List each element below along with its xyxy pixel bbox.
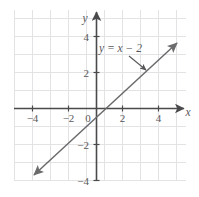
equation-label: y = x − 2 — [98, 42, 142, 55]
y-axis-label: y — [81, 12, 88, 25]
x-tick-label: −2 — [63, 112, 75, 124]
y-tick-label: 4 — [84, 31, 90, 43]
x-tick-label: 4 — [156, 112, 162, 124]
y-tick-label: 2 — [84, 67, 90, 79]
figure-background — [0, 0, 199, 197]
x-tick-label: −4 — [27, 112, 39, 124]
x-axis-label: x — [184, 106, 191, 118]
x-tick-label: 2 — [120, 112, 126, 124]
y-tick-label: −4 — [77, 175, 89, 187]
graph-figure: −4 −2 0 2 4 4 2 −2 −4 y x y = x − 2 — [0, 0, 199, 197]
coordinate-plane-svg: −4 −2 0 2 4 4 2 −2 −4 y x y = x − 2 — [0, 0, 199, 197]
y-tick-label: −2 — [77, 139, 89, 151]
